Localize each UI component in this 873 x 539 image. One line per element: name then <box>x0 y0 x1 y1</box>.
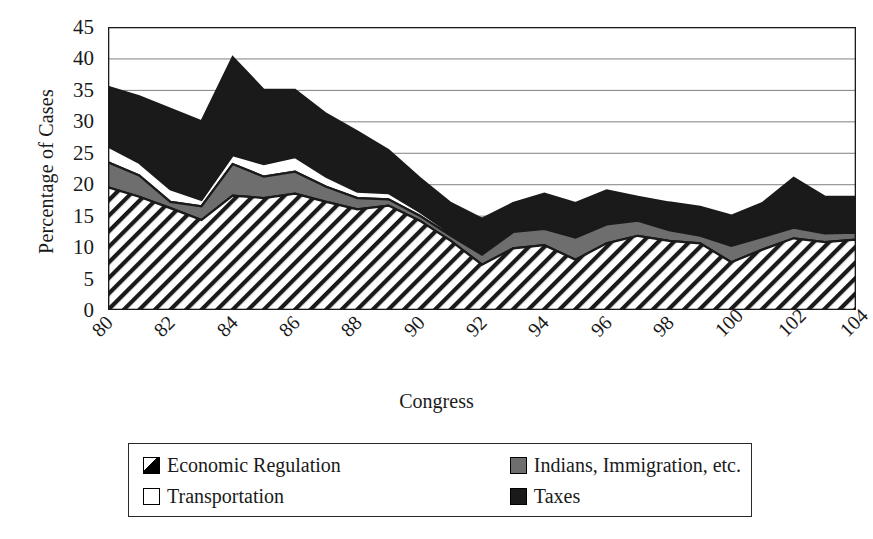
x-tick-label: 104 <box>836 305 871 340</box>
x-tick-label: 102 <box>774 305 809 340</box>
y-tick-label: 10 <box>73 237 94 258</box>
legend-item-label: Transportation <box>167 485 284 508</box>
x-axis-tick-labels: 80828486889092949698100102104 <box>108 312 868 382</box>
legend-item[interactable]: Taxes <box>436 485 741 508</box>
legend-item-label: Taxes <box>534 485 580 508</box>
x-tick-label: 88 <box>337 312 365 340</box>
x-tick-label: 98 <box>649 312 677 340</box>
x-tick-label: 100 <box>711 305 746 340</box>
y-tick-label: 45 <box>73 17 94 38</box>
x-tick-label: 86 <box>275 312 303 340</box>
y-tick-label: 15 <box>73 205 94 226</box>
white-swatch-icon <box>143 488 160 505</box>
y-tick-label: 30 <box>73 111 94 132</box>
black-swatch-icon <box>510 488 527 505</box>
legend-box: Economic RegulationIndians, Immigration,… <box>128 443 752 517</box>
gray-swatch-icon <box>510 457 527 474</box>
legend-item[interactable]: Transportation <box>143 485 436 508</box>
plot-area <box>108 27 856 310</box>
y-tick-label: 25 <box>73 142 94 163</box>
legend-grid: Economic RegulationIndians, Immigration,… <box>143 450 741 512</box>
x-tick-label: 92 <box>462 312 490 340</box>
legend-item-label: Economic Regulation <box>167 454 341 477</box>
legend-item-label: Indians, Immigration, etc. <box>534 454 741 477</box>
legend-item[interactable]: Economic Regulation <box>143 454 436 477</box>
plot-svg <box>108 27 856 310</box>
y-axis-tick-labels: 051015202530354045 <box>40 0 102 330</box>
y-tick-label: 20 <box>73 174 94 195</box>
y-tick-label: 5 <box>84 268 95 289</box>
hatch-swatch-icon <box>143 457 160 474</box>
stacked-area-chart-figure: Percentage of Cases 051015202530354045 8… <box>0 0 873 539</box>
x-tick-label: 90 <box>400 312 428 340</box>
y-tick-label: 35 <box>73 79 94 100</box>
x-tick-label: 82 <box>150 312 178 340</box>
legend-item[interactable]: Indians, Immigration, etc. <box>436 454 741 477</box>
x-axis-title: Congress <box>0 390 873 413</box>
x-tick-label: 94 <box>524 312 552 340</box>
x-tick-label: 96 <box>587 312 615 340</box>
y-tick-label: 0 <box>84 300 95 321</box>
y-tick-label: 40 <box>73 48 94 69</box>
x-tick-label: 84 <box>213 312 241 340</box>
